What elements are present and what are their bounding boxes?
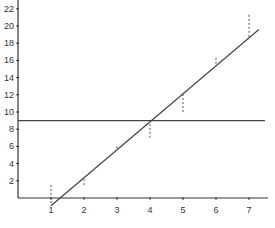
x-tick-label: 1 [48, 205, 53, 215]
y-tick-label: 6 [9, 141, 14, 151]
x-tick-label: 3 [114, 205, 119, 215]
regression-line [51, 29, 259, 205]
x-tick-label: 7 [246, 205, 251, 215]
y-tick-label: 8 [9, 124, 14, 134]
y-tick-label: 4 [9, 159, 14, 169]
y-tick-label: 10 [4, 107, 14, 117]
y-tick-label: 20 [4, 21, 14, 31]
x-tick-label: 2 [81, 205, 86, 215]
x-tick-label: 4 [147, 205, 152, 215]
y-tick-label: 2 [9, 176, 14, 186]
chart-canvas: 2468101214161820221234567 [0, 0, 275, 228]
x-tick-label: 6 [213, 205, 218, 215]
y-tick-label: 18 [4, 38, 14, 48]
x-tick-label: 5 [180, 205, 185, 215]
y-tick-label: 22 [4, 4, 14, 14]
y-tick-label: 14 [4, 73, 14, 83]
y-tick-label: 16 [4, 55, 14, 65]
y-tick-label: 12 [4, 90, 14, 100]
regression-chart: 2468101214161820221234567 [0, 0, 275, 228]
